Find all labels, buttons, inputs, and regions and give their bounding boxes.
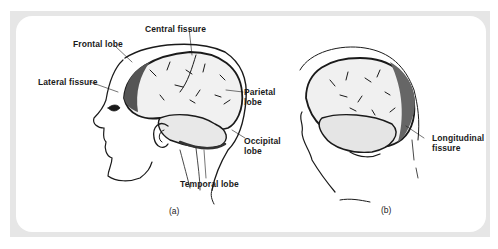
panel-a-illustration — [90, 28, 246, 204]
label-occipital-lobe-line2: lobe — [244, 146, 262, 156]
caption-panel-b: (b) — [381, 205, 391, 215]
label-parietal-lobe-line1: Parietal — [244, 87, 276, 97]
label-longitudinal-fissure-line2: fissure — [432, 143, 461, 153]
label-frontal-lobe: Frontal lobe — [73, 39, 123, 49]
label-lateral-fissure: Lateral fissure — [38, 77, 98, 87]
panel-b-illustration — [300, 47, 424, 202]
label-occipital-lobe-line1: Occipital — [244, 136, 281, 146]
label-longitudinal-fissure-line1: Longitudinal — [432, 133, 484, 143]
label-central-fissure: Central fissure — [145, 24, 206, 34]
label-parietal-lobe-line2: lobe — [244, 97, 262, 107]
caption-panel-a: (a) — [169, 206, 179, 216]
brain-illustrations — [0, 0, 498, 249]
label-temporal-lobe: Temporal lobe — [180, 179, 239, 189]
